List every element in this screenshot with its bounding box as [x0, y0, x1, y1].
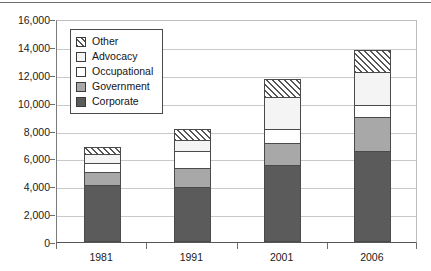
bar-segment-advocacy: [174, 140, 211, 151]
bar-segment-advocacy: [84, 154, 121, 162]
bar-segment-other: [84, 147, 121, 154]
bar-segment-occupational: [354, 105, 391, 116]
x-axis: 1981199120012006: [56, 243, 417, 271]
bar-segment-government: [174, 168, 211, 187]
y-axis-tick-mark: [50, 159, 55, 160]
bar-segment-other: [264, 79, 301, 97]
y-axis-tick-mark: [50, 76, 55, 77]
y-axis-tick-mark: [50, 215, 55, 216]
bar-1991: [174, 129, 211, 242]
legend-item-other[interactable]: Other: [76, 34, 153, 49]
y-axis-tick-mark: [50, 20, 55, 21]
bar-segment-occupational: [174, 151, 211, 168]
bar-segment-other: [354, 50, 391, 72]
x-axis-tick-label-1991: 1991: [156, 251, 226, 263]
legend-item-occupational[interactable]: Occupational: [76, 64, 153, 79]
bar-segment-corporate: [174, 187, 211, 242]
advocacy-swatch: [76, 52, 86, 62]
y-axis-tick-mark: [50, 48, 55, 49]
bar-1981: [84, 147, 121, 242]
bar-segment-corporate: [264, 165, 301, 242]
bar-segment-other: [174, 129, 211, 139]
top-divider-rule: [0, 2, 431, 3]
bar-segment-advocacy: [264, 97, 301, 129]
x-axis-tick-label-2006: 2006: [337, 251, 407, 263]
y-axis-tick-mark: [50, 243, 55, 244]
x-axis-tick-mark: [146, 243, 147, 249]
other-swatch: [76, 37, 86, 47]
x-axis-tick-label-2001: 2001: [247, 251, 317, 263]
government-swatch: [76, 82, 86, 92]
y-axis-tick-mark: [50, 104, 55, 105]
legend-item-label: Government: [92, 81, 150, 92]
bar-segment-advocacy: [354, 72, 391, 105]
x-axis-tick-label-1981: 1981: [66, 251, 136, 263]
bar-segment-occupational: [84, 163, 121, 173]
corporate-swatch: [76, 97, 86, 107]
legend-item-government[interactable]: Government: [76, 79, 153, 94]
x-axis-tick-mark: [237, 243, 238, 249]
bar-2001: [264, 79, 301, 242]
legend-item-corporate[interactable]: Corporate: [76, 94, 153, 109]
chart-legend: OtherAdvocacyOccupationalGovernmentCorpo…: [70, 29, 163, 114]
legend-item-label: Other: [92, 36, 118, 47]
bar-segment-government: [264, 143, 301, 165]
bar-segment-government: [84, 172, 121, 185]
bar-segment-corporate: [354, 151, 391, 242]
x-axis-tick-mark: [416, 243, 417, 249]
legend-item-label: Corporate: [92, 96, 139, 107]
x-axis-tick-mark: [56, 243, 57, 249]
legend-item-label: Occupational: [92, 66, 153, 77]
bar-segment-corporate: [84, 185, 121, 242]
occupational-swatch: [76, 67, 86, 77]
x-axis-tick-mark: [327, 243, 328, 249]
gridline: [57, 21, 416, 22]
legend-item-label: Advocacy: [92, 51, 138, 62]
y-axis-tick-mark: [50, 187, 55, 188]
y-axis-ticks: [0, 20, 56, 243]
bar-segment-government: [354, 117, 391, 152]
bar-2006: [354, 50, 391, 242]
legend-item-advocacy[interactable]: Advocacy: [76, 49, 153, 64]
stacked-bar-chart: 02,0004,0006,0008,00010,00012,00014,0001…: [0, 0, 431, 271]
bar-segment-occupational: [264, 129, 301, 143]
y-axis-tick-mark: [50, 132, 55, 133]
